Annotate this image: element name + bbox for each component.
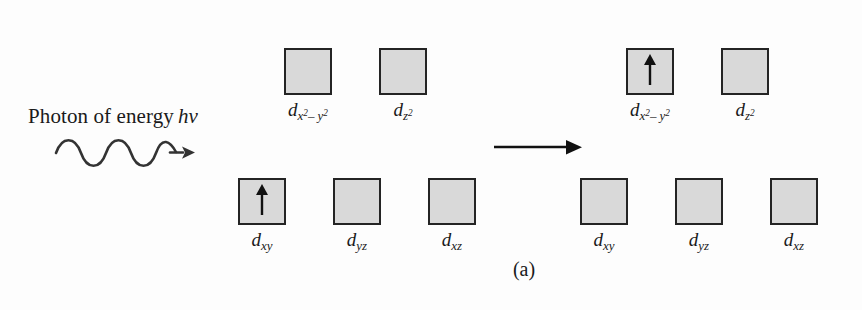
orbital-cell-d-yz[interactable]: dyz [333,178,381,253]
orbital-group-right-lower: dxy dyz dxz [580,178,818,253]
orbital-box[interactable] [238,178,286,225]
orbital-label: dz2 [393,100,412,123]
photon-energy-label: Photon of energyhν [28,104,198,129]
orbital-group-right-upper: dx2– y2 dz2 [626,48,769,123]
orbital-spacer [286,178,333,253]
transition-arrow-icon [492,132,584,166]
photon-wave-icon [52,132,197,178]
orbital-label: dz2 [735,100,754,123]
orbital-spacer [332,48,379,123]
orbital-cell-d-xy[interactable]: dxy [580,178,628,253]
orbital-box[interactable] [626,48,674,95]
orbital-label: dx2– y2 [630,100,670,123]
orbital-cell-d-xy[interactable]: dxy [238,178,286,253]
orbital-box[interactable] [428,178,476,225]
orbital-label: dxy [594,230,615,253]
orbital-spacer [723,178,770,253]
orbital-label: dx2– y2 [288,100,328,123]
orbital-cell-d-x2-y2[interactable]: dx2– y2 [626,48,674,123]
orbital-cell-d-x2-y2[interactable]: dx2– y2 [284,48,332,123]
orbital-label: dyz [347,230,367,253]
spin-up-arrow-icon [643,53,658,91]
orbital-cell-d-xz[interactable]: dxz [428,178,476,253]
orbital-label: dxy [252,230,273,253]
figure-caption: (a) [0,258,862,281]
orbital-box[interactable] [770,178,818,225]
orbital-spacer [674,48,721,123]
orbital-cell-d-yz[interactable]: dyz [675,178,723,253]
orbital-box[interactable] [379,48,427,95]
orbital-spacer [628,178,675,253]
orbital-label: dyz [689,230,709,253]
orbital-group-left-upper: dx2– y2 dz2 [284,48,427,123]
orbital-box[interactable] [721,48,769,95]
orbital-spacer [381,178,428,253]
orbital-box[interactable] [333,178,381,225]
orbital-group-left-lower: dxy dyz dxz [238,178,476,253]
spin-up-arrow-icon [255,183,270,221]
orbital-label: dxz [442,230,462,253]
orbital-transition-diagram: Photon of energyhν [0,0,862,310]
photon-energy-symbol: hν [174,104,198,128]
orbital-box[interactable] [580,178,628,225]
orbital-box[interactable] [675,178,723,225]
orbital-cell-d-z2[interactable]: dz2 [379,48,427,123]
orbital-label: dxz [784,230,804,253]
orbital-box[interactable] [284,48,332,95]
orbital-cell-d-z2[interactable]: dz2 [721,48,769,123]
photon-energy-text: Photon of energy [28,104,174,128]
orbital-cell-d-xz[interactable]: dxz [770,178,818,253]
